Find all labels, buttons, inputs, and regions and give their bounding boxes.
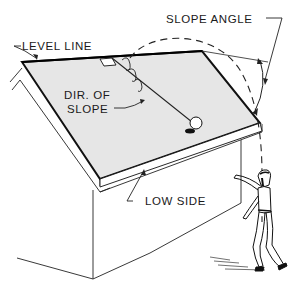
roof-slope-diagram: LEVEL LINE SLOPE ANGLE DIR. OF SLOPE LOW… xyxy=(0,0,298,293)
ball-shadow xyxy=(185,129,195,134)
slope-angle-leader xyxy=(265,18,282,80)
low-side-label: LOW SIDE xyxy=(145,195,206,207)
dir-of-slope-label-line2: SLOPE xyxy=(67,103,108,115)
man-figure xyxy=(210,170,287,271)
ball-icon xyxy=(190,117,202,129)
level-line-label: LEVEL LINE xyxy=(22,40,92,52)
slope-angle-arc xyxy=(255,60,263,111)
roof-panel xyxy=(22,51,260,179)
level-line-arrow-icon xyxy=(33,54,38,60)
dir-of-slope-label-line1: DIR. OF xyxy=(64,89,110,101)
slope-angle-label: SLOPE ANGLE xyxy=(166,13,253,25)
slope-angle-arrow-icon xyxy=(263,78,268,85)
